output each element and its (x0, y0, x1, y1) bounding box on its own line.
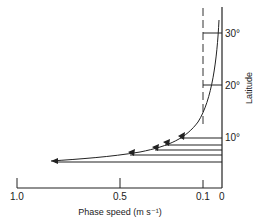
phase-speed-curve (51, 20, 219, 161)
y-tick-label-10: 10° (225, 132, 240, 143)
y-tick-label-20: 20° (225, 80, 240, 91)
x-axis-label: Phase speed (m s⁻¹) (78, 207, 162, 217)
x-tick-label-1: 1.0 (10, 191, 24, 202)
phase-speed-chart: 30° 20° 10° Latitude 1.0 0.5 0.1 0 Phase… (0, 0, 262, 223)
y-axis-label: Latitude (244, 72, 254, 104)
y-tick-label-30: 30° (225, 28, 240, 39)
x-tick-label-05: 0.5 (113, 191, 127, 202)
arrowhead-5 (51, 158, 58, 164)
x-tick-label-0: 0 (219, 191, 225, 202)
x-tick-label-01: 0.1 (196, 191, 210, 202)
